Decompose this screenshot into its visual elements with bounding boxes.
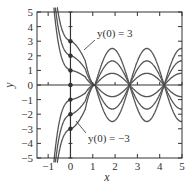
solution-curve [55,61,182,162]
initial-point [68,39,72,43]
solution-curves-chart: −1012345−5−4−3−2−1012345 y(0) = 3y(0) = … [0,0,193,185]
y-tick-label: −2 [21,108,33,120]
initial-point [68,127,72,131]
y-tick-label: 3 [28,35,34,47]
y-tick-label: −4 [21,137,33,149]
x-tick-label: 2 [112,160,118,172]
x-tick-label: −1 [42,160,54,172]
annotation-leader [76,121,86,133]
annotations: y(0) = 3y(0) = −3 [76,27,143,145]
solution-curve [55,8,182,110]
x-tick-label: 1 [90,160,96,172]
y-axis-label: y [2,82,16,89]
y-tick-label: 0 [28,79,34,91]
x-tick-label: 0 [68,160,74,172]
y-tick-label: −1 [21,94,33,106]
initial-point [68,112,72,116]
initial-point [68,68,72,72]
x-tick-label: 4 [157,160,163,172]
y-tick-label: −3 [21,123,33,135]
annotation-label: y(0) = −3 [88,132,130,145]
x-axis-label: x [103,170,110,184]
x-tick-label: 3 [135,160,141,172]
y-tick-label: 1 [28,64,34,76]
annotation-label: y(0) = 3 [97,27,133,40]
initial-point [68,54,72,58]
initial-point [68,97,72,101]
y-tick-label: 5 [28,6,34,18]
y-tick-label: 4 [28,21,34,33]
y-tick-label: 2 [28,50,34,62]
y-tick-label: −5 [21,152,33,164]
annotation-leader [84,40,95,50]
x-tick-label: 5 [179,160,185,172]
initial-point [68,83,72,87]
